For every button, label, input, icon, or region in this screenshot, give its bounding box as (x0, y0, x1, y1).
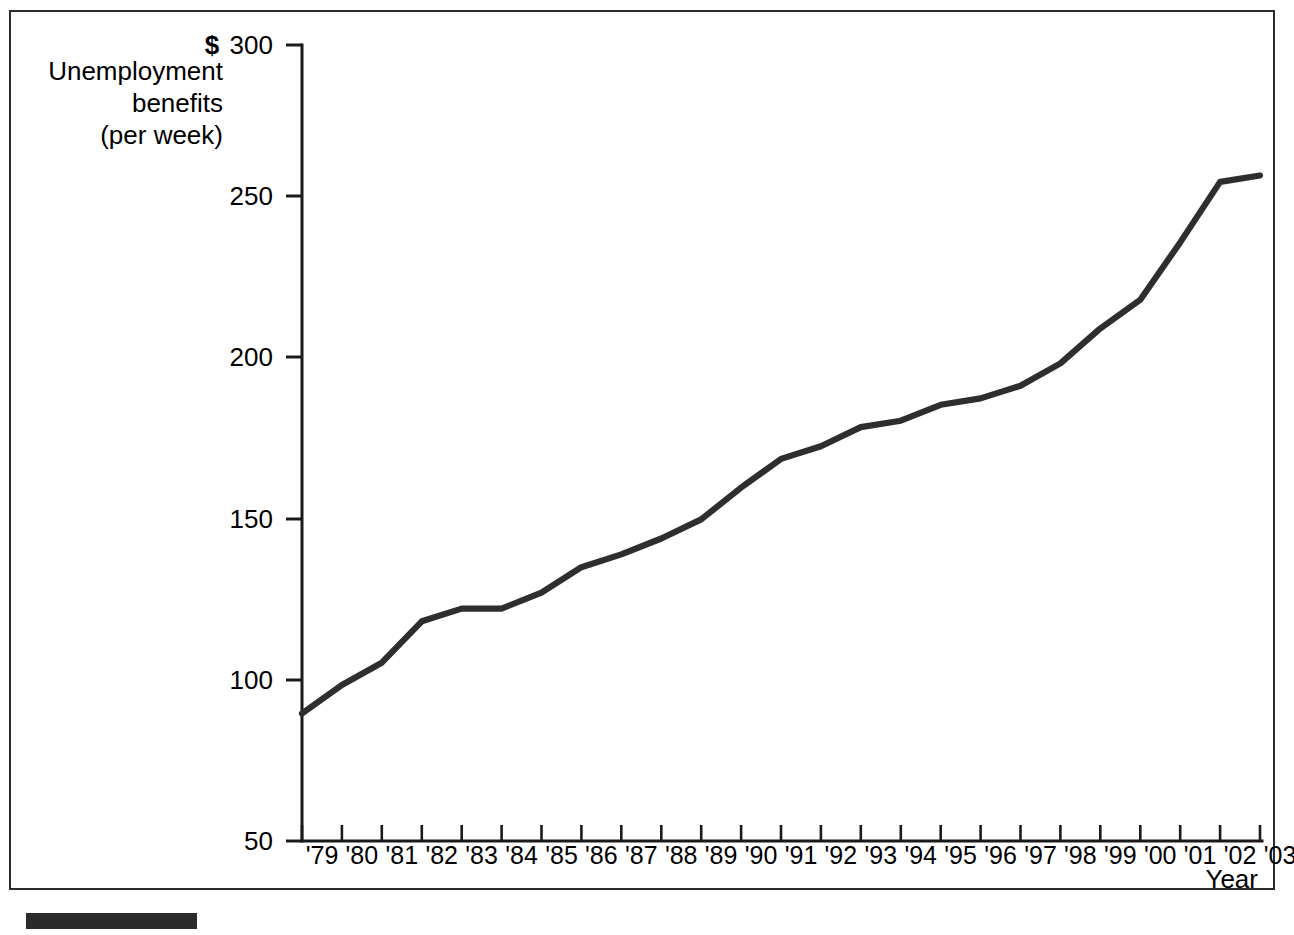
y-tick-label-300: 300 (230, 30, 273, 60)
x-tick-label: '97 (1024, 841, 1057, 869)
x-tick-label: '86 (585, 841, 618, 869)
x-tick-label: '84 (505, 841, 538, 869)
data-series-line (302, 176, 1260, 714)
x-tick-label: '87 (625, 841, 658, 869)
x-tick-label: '95 (944, 841, 977, 869)
y-axis-title-line-1: Unemployment (48, 56, 224, 86)
x-tick-label: '00 (1144, 841, 1177, 869)
x-tick-label: '03 (1264, 841, 1294, 869)
x-tick-label: '88 (665, 841, 698, 869)
x-tick-label: '93 (865, 841, 898, 869)
x-tick-label: '98 (1064, 841, 1097, 869)
currency-symbol-label: $ (205, 30, 220, 60)
y-tick-label-100: 100 (230, 665, 273, 695)
y-axis-title-line-2: benefits (132, 88, 223, 118)
x-axis-ticks: '79'80'81'82'83'84'85'86'87'88'89'90'91'… (302, 825, 1294, 869)
line-chart: Unemployment benefits (per week) $ 300 2… (0, 0, 1294, 935)
x-axis-title: Year (1205, 864, 1258, 894)
x-tick-label: '80 (346, 841, 379, 869)
x-tick-label: '82 (425, 841, 458, 869)
x-tick-label: '96 (984, 841, 1017, 869)
x-tick-label: '91 (785, 841, 818, 869)
x-tick-label: '81 (386, 841, 419, 869)
y-axis-title-line-3: (per week) (100, 120, 223, 150)
y-tick-label-150: 150 (230, 504, 273, 534)
x-tick-label: '92 (825, 841, 858, 869)
x-tick-label: '94 (904, 841, 937, 869)
bottom-marker-bar (26, 913, 197, 929)
x-tick-label: '83 (465, 841, 498, 869)
x-tick-label: '79 (306, 841, 339, 869)
x-tick-label: '85 (545, 841, 578, 869)
y-tick-label-250: 250 (230, 181, 273, 211)
x-tick-label: '90 (745, 841, 778, 869)
figure-container: Unemployment benefits (per week) $ 300 2… (0, 0, 1294, 935)
x-tick-label: '99 (1104, 841, 1137, 869)
y-tick-label-200: 200 (230, 342, 273, 372)
y-tick-label-50: 50 (244, 826, 273, 856)
x-tick-label: '89 (705, 841, 738, 869)
